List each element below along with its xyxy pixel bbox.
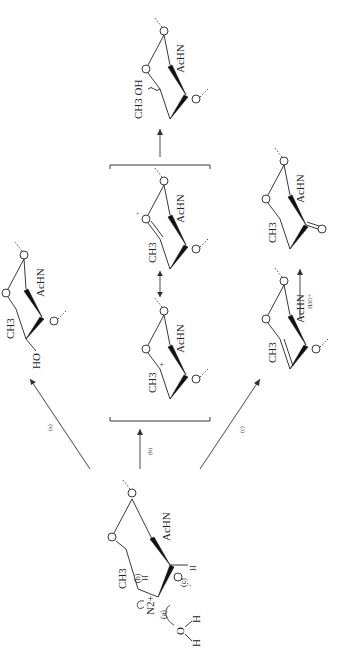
oxocarbenium-ch3: CH3 xyxy=(146,242,158,263)
product-b-achn: AcHN xyxy=(174,44,186,73)
reaction-scheme: H O H (a) N2+ CH3 H (b) AcHN xyxy=(0,0,353,669)
path-b-label: (b) xyxy=(147,448,154,455)
product-c-ch3: CH3 xyxy=(266,222,278,243)
path-a-arrow: (a) xyxy=(30,379,90,469)
bracket-left xyxy=(110,417,210,421)
mech-label-a: (a) xyxy=(159,610,168,619)
product-a-ho: HO xyxy=(30,353,42,369)
oxocarbenium-charge: + xyxy=(135,211,141,215)
arrow-to-product-b xyxy=(157,129,163,157)
enol-ether-ch3: CH3 xyxy=(266,342,278,363)
resonance-arrow xyxy=(157,271,163,297)
product-c: CH3 AcHN xyxy=(262,147,326,249)
glycosidic-oxygen-2 xyxy=(128,489,136,497)
carbonyl-oxygen xyxy=(318,225,326,233)
bracket-right xyxy=(110,165,210,169)
product-a: HO CH3 AcHN xyxy=(2,241,66,369)
water-molecule: H O H xyxy=(174,615,202,647)
achn-label: AcHN xyxy=(160,512,172,541)
oxocarbenium: CH3 + AcHN xyxy=(135,167,208,269)
water-h2: H xyxy=(190,615,202,623)
path-c-arrow: (c) xyxy=(200,379,260,469)
ring-wedge-front xyxy=(158,565,174,597)
product-b-ch3-oh: CH3 OH xyxy=(132,80,144,119)
carbocation-achn: AcHN xyxy=(174,324,186,353)
mech-label-b: (b) xyxy=(133,573,142,583)
glycosidic-oxygen-1 xyxy=(174,573,182,581)
wavy-bond xyxy=(148,88,160,91)
carbocation: CH3 + AcHN xyxy=(142,297,208,399)
product-c-achn: AcHN xyxy=(294,174,306,203)
water-o: O xyxy=(174,627,186,635)
product-a-ch3: CH3 xyxy=(4,318,16,339)
product-a-achn: AcHN xyxy=(34,268,46,297)
ch3-label: CH3 xyxy=(116,568,128,589)
oxocarbenium-achn: AcHN xyxy=(174,194,186,223)
reaction-scheme-svg: H O H (a) N2+ CH3 H (b) AcHN xyxy=(0,0,353,669)
h-b: H xyxy=(141,575,150,581)
path-b-arrow: (b) xyxy=(137,429,154,469)
enol-ether: CH3 AcHN xyxy=(262,267,328,369)
carbocation-ch3: CH3 xyxy=(146,372,158,393)
hydrolysis-reagent: H3O+ xyxy=(307,293,313,309)
path-c-label: (c) xyxy=(239,426,246,433)
leaving-group-n2: N2+ xyxy=(144,595,156,615)
product-b: CH3 OH AcHN xyxy=(132,17,208,119)
path-a-label: (a) xyxy=(47,424,54,431)
curved-arrow-n2 xyxy=(137,601,144,609)
starting-material: H O H (a) N2+ CH3 H (b) AcHN xyxy=(108,479,202,647)
ring-oxygen xyxy=(108,533,116,541)
h-c: H xyxy=(189,565,198,571)
